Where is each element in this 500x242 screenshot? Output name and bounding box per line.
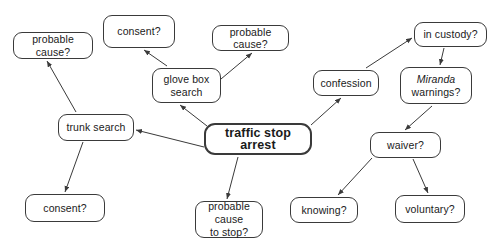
node-label-waiver: waiver? <box>383 139 428 152</box>
node-label-voluntary: voluntary? <box>401 203 458 216</box>
node-label-probable_cause_trunk: probable cause? <box>14 33 92 58</box>
edge-miranda_warnings-to-waiver <box>405 106 432 130</box>
node-label-glove_box_search: glove boxsearch <box>160 73 214 99</box>
edge-trunk_search-to-consent_trunk <box>65 142 83 192</box>
diagram-canvas: probable cause?consent?probable cause?in… <box>0 0 500 242</box>
node-label-probable_cause_stop: probable causeto stop? <box>196 200 262 239</box>
node-label-in_custody: in custody? <box>419 28 481 41</box>
edge-traffic_stop_arrest-to-confession <box>311 98 341 125</box>
node-label-consent_trunk: consent? <box>39 202 90 215</box>
node-traffic_stop_arrest[interactable]: traffic stop arrest <box>204 123 312 155</box>
node-probable_cause_trunk[interactable]: probable cause? <box>13 32 93 59</box>
edge-waiver-to-knowing <box>338 158 372 195</box>
node-confession[interactable]: confession <box>313 70 379 96</box>
edge-in_custody-to-miranda_warnings <box>440 48 444 65</box>
node-voluntary[interactable]: voluntary? <box>395 195 465 223</box>
node-glove_box_search[interactable]: glove boxsearch <box>152 68 221 103</box>
edge-traffic_stop_arrest-to-glove_box_search <box>180 105 207 126</box>
node-trunk_search[interactable]: trunk search <box>58 114 134 141</box>
node-knowing[interactable]: knowing? <box>290 197 358 223</box>
edge-glove_box_search-to-probable_cause_glove <box>221 53 252 79</box>
node-label-knowing: knowing? <box>297 204 350 217</box>
node-label-miranda_warnings: Mirandawarnings? <box>408 73 465 99</box>
node-label-probable_cause_glove: probable cause? <box>213 26 288 51</box>
edge-trunk_search-to-probable_cause_trunk <box>47 61 76 112</box>
node-probable_cause_stop[interactable]: probable causeto stop? <box>195 201 263 238</box>
node-label-confession: confession <box>316 77 375 90</box>
node-consent_glove[interactable]: consent? <box>103 15 175 48</box>
edge-waiver-to-voluntary <box>413 159 428 193</box>
node-label-traffic_stop_arrest: traffic stop arrest <box>206 127 310 152</box>
edge-glove_box_search-to-consent_glove <box>144 50 167 66</box>
node-waiver[interactable]: waiver? <box>370 132 441 158</box>
node-miranda_warnings[interactable]: Mirandawarnings? <box>400 67 472 104</box>
edge-traffic_stop_arrest-to-probable_cause_stop <box>227 157 238 199</box>
node-label-trunk_search: trunk search <box>63 121 130 134</box>
node-in_custody[interactable]: in custody? <box>414 22 487 47</box>
edge-traffic_stop_arrest-to-trunk_search <box>136 130 204 147</box>
node-consent_trunk[interactable]: consent? <box>25 194 105 222</box>
node-probable_cause_glove[interactable]: probable cause? <box>212 25 289 51</box>
edge-confession-to-in_custody <box>366 38 412 68</box>
node-label-consent_glove: consent? <box>113 25 164 38</box>
